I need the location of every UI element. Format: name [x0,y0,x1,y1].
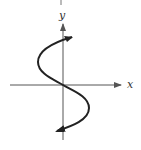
x-axis-label: x [127,78,134,91]
y-axis-label: y [58,9,66,22]
curve-arrow-bottom-icon [55,126,64,132]
graph-figure: y x [0,0,141,150]
